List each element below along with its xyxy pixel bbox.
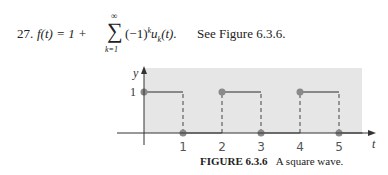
square-wave-chart: y t 123451: [0, 0, 388, 175]
x-tick-label: 3: [257, 140, 265, 154]
x-tick-label: 2: [218, 140, 226, 154]
x-tick-label: 5: [335, 140, 343, 154]
y-axis-label: y: [132, 66, 139, 80]
closed-point: [297, 89, 304, 96]
x-axis-label: t: [372, 137, 376, 151]
x-axis-arrow-icon: [368, 130, 376, 136]
figure-caption: FIGURE 6.3.6 A square wave.: [200, 155, 343, 167]
plot-shaded-background: [144, 68, 362, 133]
closed-point: [219, 89, 226, 96]
x-tick-label: 1: [179, 140, 187, 154]
figure-caption-text: A square wave.: [276, 155, 344, 167]
figure-label: FIGURE 6.3.6: [200, 155, 268, 167]
x-tick-label: 4: [296, 140, 304, 154]
y-tick-label: 1: [130, 85, 136, 99]
